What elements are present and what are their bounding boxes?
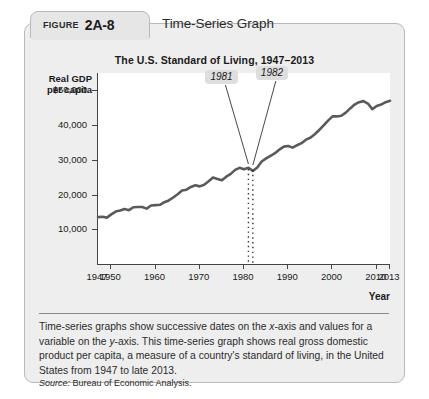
annotation-1981: 1981	[205, 70, 237, 84]
chart-title: The U.S. Standard of Living, 1947–2013	[24, 54, 405, 66]
x-tick-1960	[155, 264, 156, 269]
x-tick-2000	[331, 264, 332, 269]
figure-screenshot: FIGURE 2A-8 Time-Series Graph The U.S. S…	[0, 0, 429, 399]
x-tick-2010	[376, 264, 377, 269]
chart-panel: The U.S. Standard of Living, 1947–2013 R…	[24, 29, 405, 286]
figure-number: 2A-8	[85, 17, 115, 33]
y-tick-50000	[92, 90, 97, 91]
x-tick-label-2000: 2000	[314, 271, 348, 282]
y-axis-title-line1: Real GDP	[26, 73, 92, 84]
x-tick-2013	[389, 264, 390, 269]
x-tick-1970	[199, 264, 200, 269]
x-tick-1990	[287, 264, 288, 269]
figure-heading: Time-Series Graph	[162, 16, 274, 31]
figure-label-word: FIGURE	[43, 20, 79, 30]
recession-drop-lines	[248, 169, 252, 264]
x-tick-label-1990: 1990	[270, 271, 304, 282]
figure-tab: FIGURE 2A-8	[30, 11, 150, 38]
tab-seam-cover	[31, 36, 149, 40]
y-tick-label-30000: 30,000	[29, 155, 87, 165]
y-tick-label-10000: 10,000	[29, 224, 87, 234]
y-tick-10000	[92, 229, 97, 230]
x-tick-label-1980: 1980	[226, 271, 260, 282]
x-tick-label-2013: 2013	[372, 271, 406, 282]
figure-source: Source: Bureau of Economic Analysis.	[39, 378, 392, 388]
time-series-line-chart	[98, 73, 390, 264]
y-tick-30000	[92, 160, 97, 161]
source-label: Source:	[39, 378, 70, 388]
caption-divider	[39, 313, 389, 314]
annotation-leader-lines	[225, 81, 275, 165]
gdp-per-capita-line	[98, 101, 390, 218]
x-tick-1980	[243, 264, 244, 269]
leader-line-1981	[225, 85, 248, 164]
caption-text-1: Time-series graphs show successive dates…	[39, 321, 269, 332]
x-tick-label-1960: 1960	[138, 271, 172, 282]
annotation-1982: 1982	[256, 66, 288, 80]
x-tick-label-1950: 1950	[93, 271, 127, 282]
y-tick-label-40000: 40,000	[29, 120, 87, 130]
y-tick-20000	[92, 195, 97, 196]
y-tick-40000	[92, 125, 97, 126]
y-tick-label-20000: 20,000	[29, 190, 87, 200]
y-tick-label-50000: $50,000	[29, 85, 87, 95]
x-tick-label-1970: 1970	[182, 271, 216, 282]
x-axis-title: Year	[369, 291, 390, 302]
x-tick-1950	[110, 264, 111, 269]
source-value: Bureau of Economic Analysis.	[70, 378, 192, 388]
figure-caption: Time-series graphs show successive dates…	[39, 320, 392, 378]
plot-area	[97, 73, 390, 265]
leader-line-1982	[253, 81, 276, 165]
